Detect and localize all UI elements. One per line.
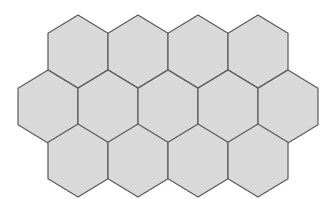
hexagon-grid — [0, 0, 333, 207]
